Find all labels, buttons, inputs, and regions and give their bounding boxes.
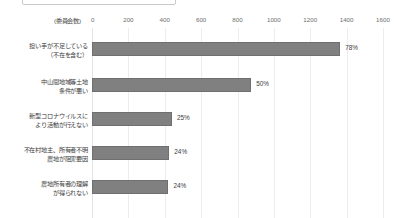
- bar[interactable]: [92, 180, 168, 194]
- x-tick-label: 1600: [376, 16, 390, 23]
- category-label: 農地所有者の理解 が得られない: [0, 180, 88, 197]
- bar-row: 不在村地主、所有者不明 農地が阻害要因24%: [0, 146, 407, 180]
- bar-wrapper: [92, 180, 168, 194]
- bar-value-label: 78%: [345, 44, 358, 51]
- bar-wrapper: [92, 42, 340, 56]
- horizontal-bar-chart: (委員会数) 02004006008001000120014001600 担い手…: [0, 0, 407, 218]
- bar-row: 新型コロナウイルスに より活動が行えない25%: [0, 112, 407, 146]
- bar-wrapper: [92, 146, 169, 160]
- category-label: 新型コロナウイルスに より活動が行えない: [0, 112, 88, 129]
- bar-row: 農地所有者の理解 が得られない24%: [0, 180, 407, 214]
- bar[interactable]: [92, 112, 172, 126]
- bar-value-label: 25%: [177, 114, 190, 121]
- category-label: 中山間地域等土地 条件が悪い: [0, 78, 88, 95]
- axis-unit-label: (委員会数): [54, 16, 81, 25]
- bar-row: 中山間地域等土地 条件が悪い50%: [0, 78, 407, 112]
- bar[interactable]: [92, 146, 169, 160]
- bar[interactable]: [92, 78, 251, 92]
- x-tick-label: 600: [196, 16, 206, 23]
- x-tick-label: 200: [123, 16, 133, 23]
- x-tick-label: 1000: [267, 16, 281, 23]
- x-tick-label: 1400: [340, 16, 354, 23]
- category-label: 不在村地主、所有者不明 農地が阻害要因: [0, 146, 88, 163]
- bar-value-label: 24%: [174, 148, 187, 155]
- x-tick-label: 400: [160, 16, 170, 23]
- x-tick-label: 0: [91, 16, 94, 23]
- bar-value-label: 50%: [256, 80, 269, 87]
- x-tick-label: 800: [232, 16, 242, 23]
- category-label: 担い手が不足している （不在を含む）: [0, 42, 88, 59]
- bar[interactable]: [92, 42, 340, 56]
- bar-wrapper: [92, 112, 172, 126]
- x-tick-label: 1200: [303, 16, 317, 23]
- bar-row: 担い手が不足している （不在を含む）78%: [0, 42, 407, 76]
- bar-wrapper: [92, 78, 251, 92]
- bar-value-label: 24%: [173, 182, 186, 189]
